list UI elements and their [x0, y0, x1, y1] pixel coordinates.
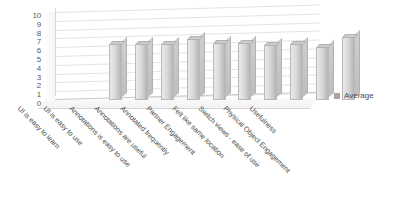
bar-body	[135, 44, 148, 100]
bar-3[interactable]	[155, 44, 181, 100]
y-tick-6: 6	[37, 47, 41, 55]
y-tick-9: 9	[37, 21, 41, 29]
bar-side	[122, 36, 127, 97]
bar-body	[109, 44, 122, 100]
bar-side	[277, 38, 282, 97]
bar-side	[174, 36, 179, 97]
y-tick-7: 7	[37, 38, 41, 46]
bar-side	[329, 40, 334, 97]
bar-series-average	[102, 12, 360, 100]
bar-top	[342, 34, 358, 38]
bar-side	[303, 36, 308, 97]
y-tick-8: 8	[37, 30, 41, 38]
x-label-5: Annotated frequently	[119, 104, 172, 157]
bar-body	[238, 43, 251, 100]
y-tick-10: 10	[33, 12, 42, 20]
chart-legend: Average	[334, 92, 374, 100]
bar-front	[161, 44, 174, 100]
bar-side	[148, 36, 153, 97]
x-label-6: Partner Engagement	[145, 104, 198, 157]
bar-side	[200, 32, 205, 97]
bar-body	[213, 43, 226, 100]
bar-front	[135, 44, 148, 100]
y-tick-3: 3	[37, 74, 41, 82]
x-axis-category-labels: UI is easy to learnUI is easy to useAnno…	[0, 104, 340, 210]
y-axis: 109876543210	[18, 8, 44, 104]
bar-body	[187, 39, 200, 100]
bar-1[interactable]	[103, 44, 129, 100]
bar-8[interactable]	[284, 44, 310, 100]
bar-7[interactable]	[258, 45, 284, 100]
bar-side	[355, 29, 360, 97]
bar-body	[290, 44, 303, 100]
bar-5[interactable]	[206, 43, 232, 100]
bar-front	[187, 39, 200, 100]
bar-front	[238, 43, 251, 100]
bar-front	[290, 44, 303, 100]
y-tick-2: 2	[37, 82, 41, 90]
bar-6[interactable]	[232, 43, 258, 100]
bar-body	[264, 45, 277, 100]
bar-side	[251, 36, 256, 97]
bar-side	[226, 36, 231, 97]
y-tick-5: 5	[37, 56, 41, 64]
legend-label-average: Average	[344, 92, 374, 100]
bar-front	[109, 44, 122, 100]
plot-side-wall	[47, 12, 55, 104]
bar-2[interactable]	[129, 44, 155, 100]
bar-body	[161, 44, 174, 100]
bar-body	[316, 47, 329, 100]
bar-4[interactable]	[180, 39, 206, 100]
plot-area	[47, 12, 319, 100]
bar-front	[264, 45, 277, 100]
y-tick-1: 1	[37, 91, 41, 99]
bar-9[interactable]	[309, 47, 335, 100]
bar-top	[213, 40, 229, 44]
bar-front	[213, 43, 226, 100]
y-tick-4: 4	[37, 65, 41, 73]
bar-front	[316, 47, 329, 100]
legend-swatch-average	[334, 93, 340, 99]
chart-container: 109876543210 UI is easy to learnUI is ea…	[0, 0, 398, 210]
